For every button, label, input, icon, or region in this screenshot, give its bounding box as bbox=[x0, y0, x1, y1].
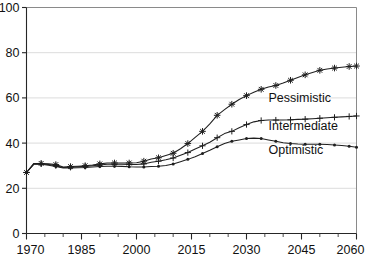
series-annotations-group: PessimisticIntermediateOptimistic bbox=[269, 91, 339, 157]
series-label-pessimistic: Pessimistic bbox=[269, 91, 332, 105]
x-tick-label: 1985 bbox=[68, 243, 96, 257]
y-tick-label: 60 bbox=[6, 91, 20, 105]
series-label-optimistic: Optimistic bbox=[269, 143, 324, 157]
y-tick-label: 0 bbox=[13, 227, 20, 241]
x-tick-label: 2000 bbox=[123, 243, 151, 257]
x-tick-label: 2030 bbox=[233, 243, 261, 257]
y-tick-label: 80 bbox=[6, 46, 20, 60]
x-tick-label: 1970 bbox=[17, 243, 45, 257]
chart-container: 020406080100 197019852000201520302045206… bbox=[0, 0, 373, 266]
x-axis-group: 1970198520002015203020452060 bbox=[17, 234, 365, 257]
series-label-intermediate: Intermediate bbox=[269, 119, 339, 133]
x-tick-label: 2045 bbox=[288, 243, 316, 257]
y-tick-label: 20 bbox=[6, 182, 20, 196]
cut-off-footer-text bbox=[0, 261, 373, 266]
x-tick-label: 2015 bbox=[178, 243, 206, 257]
y-axis-group: 020406080100 bbox=[0, 1, 27, 241]
x-tick-label: 2060 bbox=[337, 243, 365, 257]
line-chart: 020406080100 197019852000201520302045206… bbox=[0, 0, 373, 266]
y-tick-label: 100 bbox=[0, 1, 20, 15]
y-tick-label: 40 bbox=[6, 137, 20, 151]
